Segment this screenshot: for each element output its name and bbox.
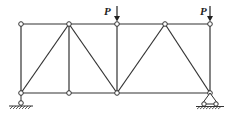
truss-diagram: P P	[0, 0, 234, 124]
right-pin-support	[196, 93, 224, 109]
load-label: P	[200, 5, 207, 17]
node	[19, 91, 24, 96]
arrow-down-icon	[207, 16, 213, 22]
diagonal-member	[117, 24, 165, 93]
load-label: P	[104, 5, 111, 17]
truss-members	[21, 24, 210, 93]
node	[67, 91, 72, 96]
diagonal-member	[21, 24, 69, 93]
node	[115, 22, 120, 27]
left-roller-support	[9, 95, 33, 109]
node	[115, 91, 120, 96]
arrow-down-icon	[114, 16, 120, 22]
load-arrow-left: P	[104, 5, 120, 22]
diagonal-member	[165, 24, 210, 93]
diagonal-member	[69, 24, 117, 93]
load-arrow-right: P	[200, 5, 213, 22]
node	[19, 22, 24, 27]
node	[208, 22, 213, 27]
node	[67, 22, 72, 27]
node	[163, 22, 168, 27]
truss-nodes	[19, 22, 213, 96]
